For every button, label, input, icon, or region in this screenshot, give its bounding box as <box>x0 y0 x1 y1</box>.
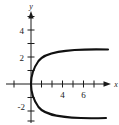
x-axis-label: x <box>113 80 118 89</box>
x-tick-label-4: 4 <box>60 90 65 100</box>
parabola-lower-branch <box>31 84 106 118</box>
plot-canvas: 4 2 -2 4 6 y x <box>0 0 119 125</box>
y-axis-label: y <box>28 2 33 11</box>
x-axis-arrowhead <box>104 81 112 86</box>
y-tick-label-minus-2: -2 <box>18 102 26 112</box>
parabola-figure: 4 2 -2 4 6 y x <box>0 0 119 125</box>
parabola-upper-branch <box>31 49 108 84</box>
y-axis-arrowhead <box>28 11 33 19</box>
y-tick-label-4: 4 <box>20 26 25 36</box>
y-tick-label-2: 2 <box>20 53 25 63</box>
x-tick-label-6: 6 <box>81 90 86 100</box>
